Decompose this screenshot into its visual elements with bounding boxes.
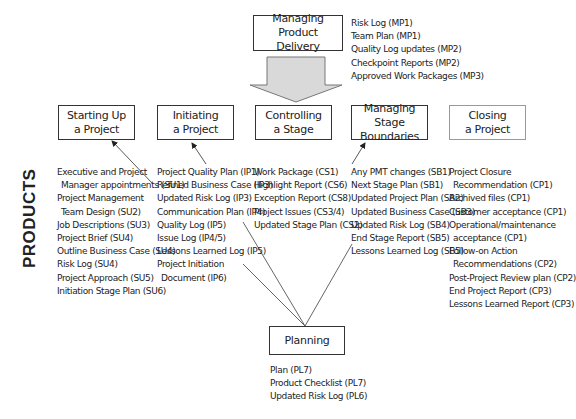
box-title-line: Delivery <box>276 40 319 54</box>
box-title-line: a Project <box>74 123 119 137</box>
list-item: Project Issues (CS3/4) <box>254 206 362 219</box>
list-item: Plan (PL7) <box>270 364 367 377</box>
down-arrow-icon <box>250 57 342 102</box>
list-item: Customer acceptance (CP1) <box>449 206 576 219</box>
planning-products: Plan (PL7) Product Checklist (PL7) Updat… <box>270 364 367 404</box>
box-title-line: Initiating <box>173 109 219 123</box>
list-item: Recommendation (CP1) <box>449 179 576 192</box>
closing-box: Closing a Project <box>449 105 526 140</box>
list-item: Quality Log updates (MP2) <box>351 43 484 56</box>
list-item: Product Checklist (PL7) <box>270 377 367 390</box>
list-item: Archived files (CP1) <box>449 192 576 205</box>
list-item: Risk Log (MP1) <box>351 17 484 30</box>
list-item: Highlight Report (CS6) <box>254 179 362 192</box>
box-title-line: a Project <box>173 123 218 137</box>
mpd-products-list: Risk Log (MP1) Team Plan (MP1) Quality L… <box>351 17 484 83</box>
managing-product-delivery-box: Managing Product Delivery <box>253 15 343 51</box>
box-title-line: Boundaries <box>360 130 419 144</box>
list-item: Recommendations (CP2) <box>449 258 576 271</box>
list-item: Document (IP6) <box>157 272 273 285</box>
list-item: Updated Risk Log (PL6) <box>270 390 367 403</box>
list-item: Lessons Learned Report (CP3) <box>449 298 576 311</box>
list-item: Team Plan (MP1) <box>351 30 484 43</box>
planning-box: Planning <box>269 326 345 355</box>
products-side-label: PRODUCTS <box>20 178 40 268</box>
list-item: Lessons Learned Log (IP5) <box>157 245 273 258</box>
list-item: Initiation Stage Plan (SU6) <box>57 285 185 298</box>
controlling-products: Work Package (CS1) Highlight Report (CS6… <box>254 166 362 232</box>
initiating-box: Initiating a Project <box>157 105 234 140</box>
box-title-line: Starting Up <box>67 109 126 123</box>
list-item: Checkpoint Reports (MP2) <box>351 57 484 70</box>
box-title-line: Managing Stage <box>352 102 427 130</box>
list-item: End Project Report (CP3) <box>449 285 576 298</box>
box-title-line: a Stage <box>274 123 314 137</box>
closing-products: Project Closure Recommendation (CP1) Arc… <box>449 166 576 311</box>
list-item: Post-Project Review plan (CP2) <box>449 272 576 285</box>
managing-stage-boundaries-box: Managing Stage Boundaries <box>351 105 428 140</box>
box-title-line: Closing <box>468 109 506 123</box>
list-item: Follow-on Action <box>449 245 576 258</box>
box-title-line: Planning <box>285 334 330 348</box>
list-item: acceptance (CP1) <box>449 232 576 245</box>
list-item: Exception Report (CS8) <box>254 192 362 205</box>
box-title-line: a Project <box>465 123 510 137</box>
controlling-box: Controlling a Stage <box>255 105 332 140</box>
list-item: Approved Work Packages (MP3) <box>351 70 484 83</box>
box-title-line: Managing Product <box>254 12 342 40</box>
box-title-line: Controlling <box>265 109 322 123</box>
list-item: Issue Log (IP4/5) <box>157 232 273 245</box>
starting-up-box: Starting Up a Project <box>58 105 135 140</box>
list-item: Project Closure <box>449 166 576 179</box>
list-item: Updated Stage Plan (CS2) <box>254 219 362 232</box>
list-item: Project Initiation <box>157 258 273 271</box>
list-item: Work Package (CS1) <box>254 166 362 179</box>
list-item: Operational/maintenance <box>449 219 576 232</box>
